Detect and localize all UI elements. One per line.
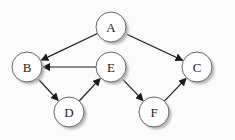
edge-d-to-e (79, 79, 100, 101)
node-label: B (23, 60, 32, 75)
node-b: B (12, 52, 45, 85)
edge-e-to-f (121, 78, 143, 101)
node-f: F (139, 97, 172, 130)
node-a: A (96, 12, 129, 45)
node-label: C (193, 60, 202, 75)
edge-a-to-c (125, 33, 183, 60)
edge-f-to-c (164, 79, 186, 102)
node-label: D (64, 105, 73, 120)
node-label: F (150, 105, 157, 120)
edge-a-to-b (41, 33, 97, 60)
node-e: E (96, 52, 129, 85)
node-label: E (107, 60, 115, 75)
node-c: C (182, 52, 215, 85)
node-label: A (106, 20, 116, 35)
node-d: D (54, 97, 87, 130)
directed-graph-diagram: ABCDEF (0, 0, 235, 140)
edge-b-to-d (37, 78, 58, 100)
nodes-layer: ABCDEF (12, 12, 215, 130)
